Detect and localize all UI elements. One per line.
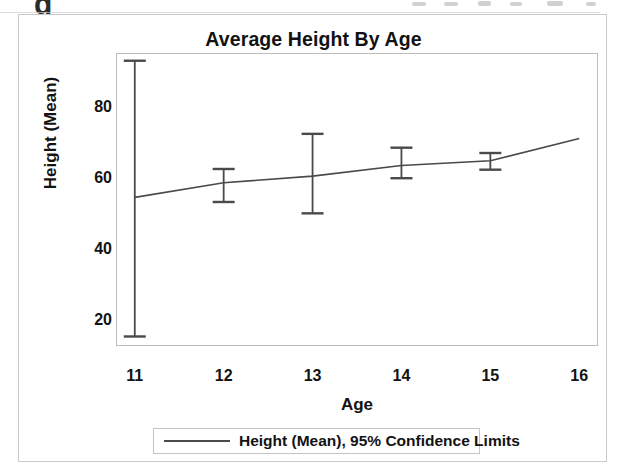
- x-tick-label: 13: [291, 367, 335, 385]
- y-tick-label: 20: [72, 311, 112, 329]
- scan-blot: [478, 1, 491, 6]
- mean-trend-line: [135, 138, 579, 197]
- scan-blot: [586, 2, 596, 6]
- x-tick-label: 11: [113, 367, 157, 385]
- y-axis-tick-labels: 20406080: [64, 53, 112, 346]
- legend-label: Height (Mean), 95% Confidence Limits: [239, 432, 520, 450]
- scan-blot: [412, 2, 426, 6]
- plot-svg: [117, 54, 597, 345]
- x-tick-label: 15: [468, 367, 512, 385]
- x-tick-label: 16: [557, 367, 601, 385]
- x-axis-title: Age: [116, 395, 598, 415]
- error-bar-age-13: [302, 134, 324, 213]
- error-bar-age-14: [390, 148, 412, 179]
- y-tick-label: 40: [72, 240, 112, 258]
- error-bar-age-12: [213, 169, 235, 202]
- scan-artifact-strip: g: [0, 0, 625, 14]
- y-tick-label: 80: [72, 98, 112, 116]
- scan-blot: [510, 2, 522, 6]
- chart-legend: Height (Mean), 95% Confidence Limits: [153, 428, 480, 454]
- scan-blot: [444, 2, 458, 6]
- x-tick-label: 12: [202, 367, 246, 385]
- scan-blot: [547, 1, 563, 6]
- plot-area: [116, 53, 598, 346]
- x-axis-tick-labels: 111213141516: [116, 367, 598, 389]
- legend-line-swatch: [164, 435, 230, 447]
- error-bar-age-11: [124, 61, 146, 337]
- scan-rule-artifact: [0, 12, 600, 13]
- y-axis-title: Height (Mean): [41, 38, 61, 228]
- chart-container: Average Height By Age Height (Mean) 2040…: [18, 14, 607, 462]
- x-tick-label: 14: [379, 367, 423, 385]
- chart-title: Average Height By Age: [19, 28, 608, 51]
- y-tick-label: 60: [72, 169, 112, 187]
